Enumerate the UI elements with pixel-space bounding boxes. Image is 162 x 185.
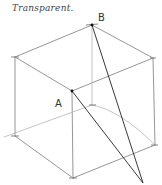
label-a: A bbox=[55, 98, 62, 109]
point-b bbox=[91, 24, 94, 27]
cube-hidden-edges bbox=[4, 25, 155, 145]
points bbox=[71, 24, 94, 93]
label-b: B bbox=[98, 12, 105, 23]
sight-lines bbox=[72, 25, 143, 183]
tick-marks bbox=[11, 24, 158, 178]
point-a bbox=[71, 90, 74, 93]
cube-drawing bbox=[0, 0, 162, 185]
